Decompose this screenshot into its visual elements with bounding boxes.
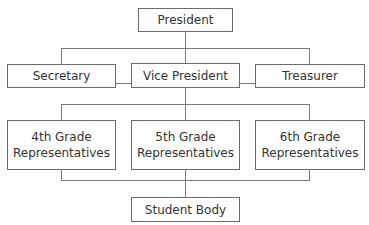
- connector-to-grade5: [185, 104, 186, 120]
- node-grade5-label-line1: 5th Grade: [155, 129, 215, 145]
- node-student-body: Student Body: [131, 197, 240, 222]
- node-grade4-label-line1: 4th Grade: [31, 129, 91, 145]
- node-treasurer: Treasurer: [255, 64, 365, 88]
- node-secretary: Secretary: [7, 64, 116, 88]
- connector-to-grade6: [309, 104, 310, 120]
- connector-vp-down: [185, 88, 186, 104]
- connector-grade5-down: [185, 170, 186, 197]
- node-grade4-representatives: 4th Grade Representatives: [7, 120, 116, 170]
- node-grade5-representatives: 5th Grade Representatives: [131, 120, 240, 170]
- node-grade5-label-line2: Representatives: [137, 145, 234, 161]
- node-treasurer-label: Treasurer: [282, 68, 338, 84]
- node-vice-president: Vice President: [131, 63, 240, 88]
- node-grade6-label-line1: 6th Grade: [280, 129, 340, 145]
- connector-to-vice-president: [185, 48, 186, 63]
- connector-to-grade4: [61, 104, 62, 120]
- node-grade6-label-line2: Representatives: [262, 145, 359, 161]
- node-grade6-representatives: 6th Grade Representatives: [255, 120, 365, 170]
- connector-president-down: [185, 31, 186, 48]
- node-president: President: [138, 8, 233, 32]
- connector-to-treasurer: [309, 48, 310, 64]
- connector-to-secretary: [61, 48, 62, 64]
- node-grade4-label-line2: Representatives: [13, 145, 110, 161]
- org-chart-diagram: President Secretary Vice President Treas…: [0, 0, 369, 225]
- connector-grade4-down: [61, 170, 62, 180]
- connector-secretary-vp: [115, 83, 131, 84]
- connector-grade6-down: [309, 170, 310, 180]
- connector-vp-treasurer: [239, 83, 255, 84]
- node-president-label: President: [158, 12, 214, 28]
- connector-student-body-bar: [61, 180, 310, 181]
- node-vice-president-label: Vice President: [143, 68, 228, 84]
- node-student-body-label: Student Body: [145, 202, 226, 218]
- node-secretary-label: Secretary: [33, 68, 91, 84]
